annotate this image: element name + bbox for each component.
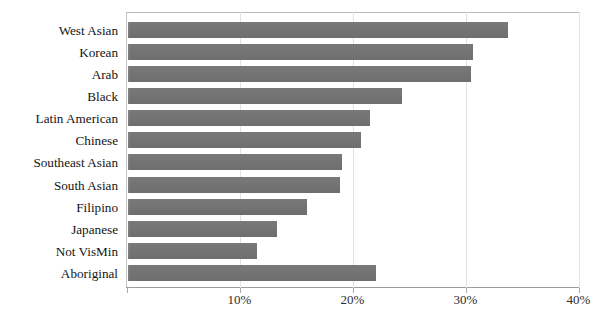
y-axis-category-label: Black [0,89,118,105]
x-axis-tick-label: 30% [436,292,496,308]
bar-chart: 10%20%30%40% West AsianKoreanArabBlackLa… [0,0,609,327]
bar [128,44,474,60]
bar [128,154,343,170]
bar [128,177,340,193]
y-axis-category-label: Latin American [0,111,118,127]
bar [128,88,403,104]
y-axis-category-label: Japanese [0,222,118,238]
x-axis-tick-label: 40% [549,292,609,308]
y-axis-category-label: Aboriginal [0,266,118,282]
bar [128,265,377,281]
bar [128,199,308,215]
y-axis-category-label: Filipino [0,200,118,216]
bar [128,221,277,237]
y-axis-category-label: South Asian [0,178,118,194]
y-axis-category-label: Arab [0,67,118,83]
x-axis-tick-label: 20% [323,292,383,308]
tick-mark-origin [127,288,128,293]
bar [128,243,258,259]
x-axis-tick-label: 10% [210,292,270,308]
y-axis-category-label: West Asian [0,23,118,39]
chart-title [0,0,609,5]
gridline-40pct [579,12,580,288]
y-axis-category-label: Korean [0,45,118,61]
bar [128,22,509,38]
y-axis-category-label: Southeast Asian [0,155,118,171]
bar [128,66,472,82]
y-axis-category-label: Chinese [0,133,118,149]
bar [128,132,362,148]
bar [128,110,371,126]
y-axis-category-label: Not VisMin [0,244,118,260]
